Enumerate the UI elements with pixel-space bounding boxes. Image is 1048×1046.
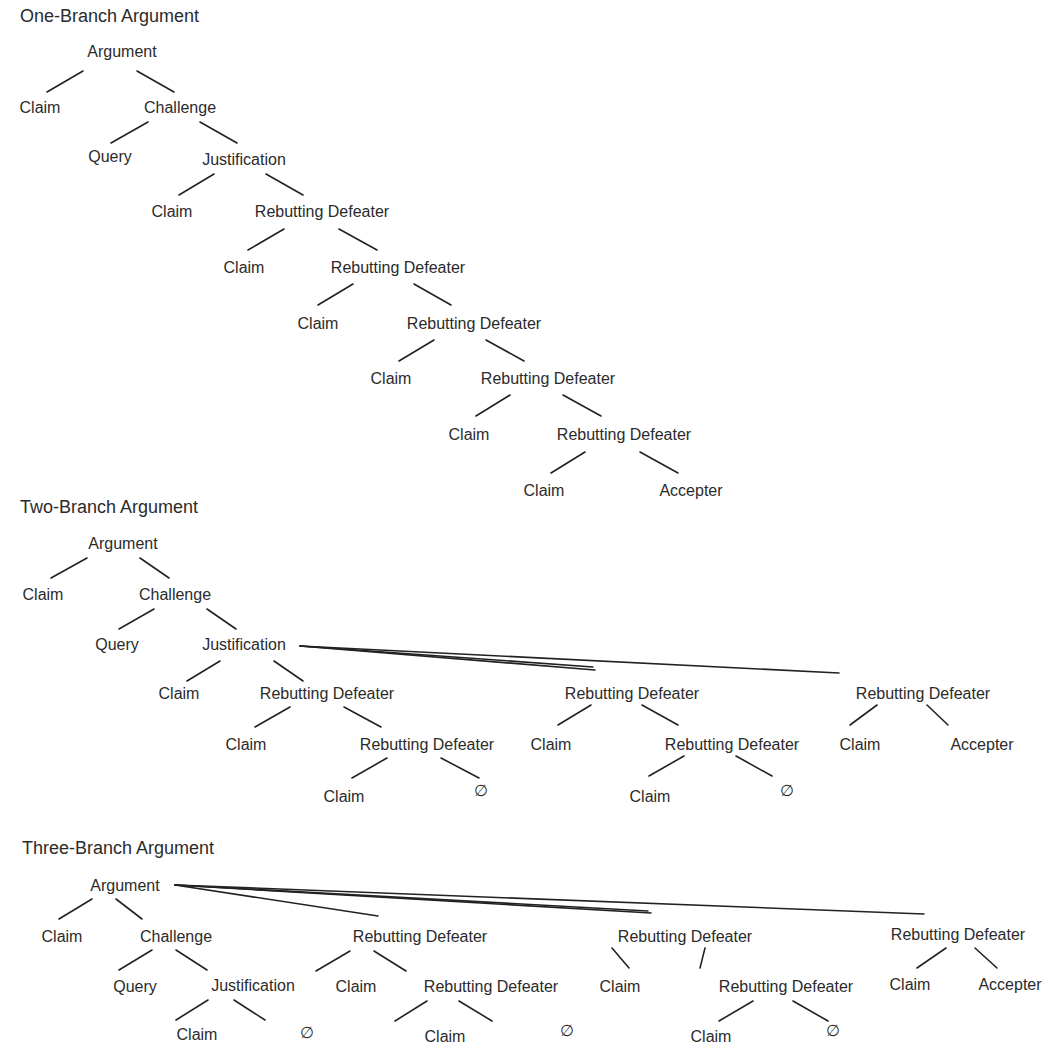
tree-edge [111,122,148,143]
node-rebutting-defeater: Rebutting Defeater [665,736,800,753]
one-branch-nodes: ArgumentClaimChallengeQueryJustification… [20,43,724,499]
tree-edge [700,948,705,968]
node-accepter: Accepter [950,736,1014,753]
tree-edge [551,452,585,473]
node-empty-set: ∅ [780,782,794,799]
node-rebutting-defeater: Rebutting Defeater [353,928,488,945]
node-claim: Claim [449,426,490,443]
tree-edge [200,122,237,143]
tree-edge [51,558,87,578]
node-empty-set: ∅ [560,1022,574,1039]
tree-edge [640,452,678,473]
tree-edge [975,948,997,968]
node-rebutting-defeater: Rebutting Defeater [719,978,854,995]
tree-edge [850,705,877,725]
node-justification: Justification [211,977,295,994]
tree-edge [137,71,174,92]
tree-edge [927,705,948,725]
tree-edge [793,1001,828,1021]
tree-edge [649,756,684,776]
tree-edge [316,951,350,971]
tree-edge [441,758,479,778]
node-justification: Justification [202,151,286,168]
tree-edge [234,1000,265,1020]
tree-edge [719,1001,753,1021]
node-claim: Claim [298,315,339,332]
tree-edge [352,758,387,778]
node-claim: Claim [531,736,572,753]
node-claim: Claim [20,99,61,116]
two-branch-argument-tree: Two-Branch Argument ArgumentClaimChallen… [20,497,1014,805]
tree-edge [59,899,92,919]
node-claim: Claim [890,976,931,993]
node-claim: Claim [524,482,565,499]
node-claim: Claim [177,1026,218,1043]
node-claim: Claim [23,586,64,603]
node-claim: Claim [630,788,671,805]
tree-edge [563,395,601,416]
node-query: Query [113,978,157,995]
tree-edge [175,885,648,911]
node-claim: Claim [840,736,881,753]
tree-edge [339,229,377,250]
node-argument: Argument [88,535,158,552]
tree-edge [395,1001,427,1021]
tree-edge [47,71,83,92]
node-challenge: Challenge [140,928,212,945]
tree-edge [119,950,152,970]
node-query: Query [88,148,132,165]
tree-edge [476,395,510,416]
node-claim: Claim [691,1028,732,1045]
node-rebutting-defeater: Rebutting Defeater [424,978,559,995]
node-rebutting-defeater: Rebutting Defeater [891,926,1026,943]
tree-edge [558,705,591,725]
node-claim: Claim [152,203,193,220]
three-branch-title: Three-Branch Argument [22,838,214,858]
tree-edge [255,707,290,727]
node-rebutting-defeater: Rebutting Defeater [260,685,395,702]
node-query: Query [95,636,139,653]
tree-edge [248,229,284,250]
tree-edge [486,340,524,361]
two-branch-title: Two-Branch Argument [20,497,198,517]
one-branch-title: One-Branch Argument [20,6,199,26]
node-argument: Argument [90,877,160,894]
node-rebutting-defeater: Rebutting Defeater [565,685,700,702]
tree-edge [917,948,946,968]
node-claim: Claim [159,685,200,702]
node-rebutting-defeater: Rebutting Defeater [255,203,390,220]
tree-edge [187,661,220,681]
node-claim: Claim [371,370,412,387]
node-claim: Claim [336,978,377,995]
node-claim: Claim [224,259,265,276]
node-challenge: Challenge [144,99,216,116]
tree-edge [116,899,142,919]
node-rebutting-defeater: Rebutting Defeater [407,315,542,332]
argument-structure-diagrams: One-Branch Argument ArgumentClaimChallen… [0,0,1048,1046]
node-rebutting-defeater: Rebutting Defeater [481,370,616,387]
tree-edge [414,284,451,305]
tree-edge [140,558,169,578]
node-claim: Claim [600,978,641,995]
node-argument: Argument [87,43,157,60]
tree-edge [374,951,406,971]
tree-edge [207,609,236,629]
tree-edge [274,661,303,681]
tree-edge [642,705,678,725]
three-branch-edges [59,885,997,1021]
node-empty-set: ∅ [474,782,488,799]
tree-edge [179,174,214,195]
node-justification: Justification [202,636,286,653]
node-claim: Claim [324,788,365,805]
tree-edge [176,1000,208,1020]
tree-edge [266,174,303,195]
node-rebutting-defeater: Rebutting Defeater [618,928,753,945]
node-empty-set: ∅ [826,1022,840,1039]
three-branch-argument-tree: Three-Branch Argument ArgumentClaimChall… [22,838,1042,1045]
node-empty-set: ∅ [300,1024,314,1041]
tree-edge [399,340,434,361]
node-rebutting-defeater: Rebutting Defeater [331,259,466,276]
tree-edge [176,950,207,970]
one-branch-argument-tree: One-Branch Argument ArgumentClaimChallen… [20,6,724,499]
tree-edge [318,284,353,305]
